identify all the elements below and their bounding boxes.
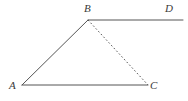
segment-BC	[88, 20, 148, 85]
vertex-label-b: B	[84, 3, 91, 14]
segment-AB	[22, 20, 88, 85]
vertex-label-d: D	[165, 3, 173, 14]
vertex-label-a: A	[9, 80, 16, 91]
geometry-figure: A B C D	[0, 0, 188, 101]
geometry-canvas	[0, 0, 188, 101]
vertex-label-c: C	[150, 80, 157, 91]
